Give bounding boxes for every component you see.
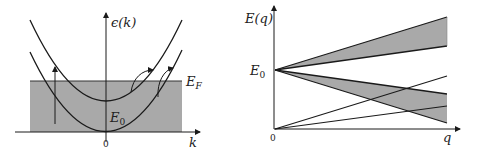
fermi-energy-label: EF bbox=[185, 74, 203, 91]
diagram-canvas: ϵ(k) EF E0 0 k E(q) E0 0 q bbox=[0, 0, 477, 156]
origin-label: 0 bbox=[103, 139, 109, 149]
k-axis-label: k bbox=[189, 135, 197, 150]
epsilon-axis-label: ϵ(k) bbox=[111, 15, 136, 30]
right-panel-excitation-spectrum: E(q) E0 0 q bbox=[244, 6, 460, 145]
linear-mode-shallow bbox=[275, 106, 447, 129]
e0-label-right: E0 bbox=[249, 63, 266, 80]
q-axis-label: q bbox=[443, 130, 451, 145]
origin-label-right: 0 bbox=[270, 133, 276, 143]
energy-axis-label: E(q) bbox=[244, 11, 273, 26]
left-panel-dispersion: ϵ(k) EF E0 0 k bbox=[15, 13, 203, 150]
